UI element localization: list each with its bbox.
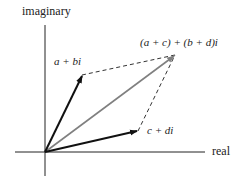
dashed-edge-right	[138, 55, 175, 131]
sum-vector-label: (a + c) + (b + d)i	[140, 36, 218, 48]
x-axis-label: real	[212, 144, 230, 159]
vector-a-bi-label: a + bi	[54, 55, 81, 67]
complex-plane-diagram	[0, 0, 243, 182]
y-axis-label: imaginary	[22, 4, 71, 19]
vector-a-bi-arrow	[45, 76, 82, 152]
vector-c-di-label: c + di	[147, 124, 173, 136]
